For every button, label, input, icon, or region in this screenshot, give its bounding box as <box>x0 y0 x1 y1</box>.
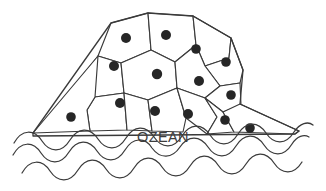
dot-10 <box>150 106 160 116</box>
dot-3 <box>191 44 201 54</box>
cell-flank-right <box>223 104 299 134</box>
dot-6 <box>152 69 162 79</box>
ocean-shell-illustration: OZEAN <box>0 0 326 191</box>
ocean-label: OZEAN <box>137 129 189 145</box>
scene-canvas: OZEAN <box>0 0 326 191</box>
dot-7 <box>194 76 204 86</box>
dot-12 <box>220 115 230 125</box>
dot-14 <box>66 112 76 122</box>
dot-2 <box>161 30 171 40</box>
dot-4 <box>221 57 231 67</box>
dot-1 <box>121 33 131 43</box>
dot-8 <box>226 90 236 100</box>
dot-9 <box>115 98 125 108</box>
dot-5 <box>109 61 119 71</box>
cell-flank-left <box>33 56 98 133</box>
dot-11 <box>183 109 193 119</box>
